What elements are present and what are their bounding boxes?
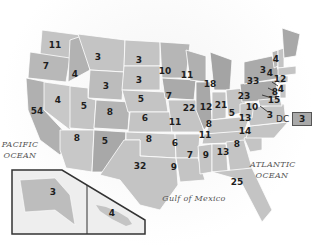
us-electoral-map: 11 7 4 3 3 3 3 5 54 4 5 8 8 5 6 8 32 10 … xyxy=(0,0,314,247)
pacific-ocean-label: PACIFIC OCEAN xyxy=(0,139,40,161)
gulf-of-mexico-label: Gulf of Mexico xyxy=(159,193,229,204)
leader-lines xyxy=(0,0,314,247)
dc-callout: DC 3 xyxy=(276,112,312,126)
atlantic-ocean-label: ATLANTIC OCEAN xyxy=(250,159,294,181)
dc-value-box: 3 xyxy=(292,112,312,126)
dc-label: DC xyxy=(276,114,289,124)
